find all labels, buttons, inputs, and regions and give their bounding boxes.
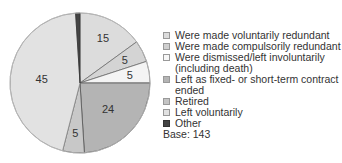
slice-value-label: 5 — [122, 54, 128, 66]
pie-slice — [80, 83, 150, 153]
legend-swatch — [163, 76, 170, 83]
legend-swatch — [163, 98, 170, 105]
slice-value-label: 5 — [127, 69, 133, 81]
slice-value-label: 5 — [72, 127, 78, 139]
legend: Were made voluntarily redundant Were mad… — [163, 30, 341, 140]
legend-item-dismissed: Were dismissed/left involuntarily (inclu… — [163, 52, 341, 74]
legend-swatch — [163, 54, 170, 61]
slice-value-label: 15 — [97, 32, 109, 44]
legend-swatch — [163, 43, 170, 50]
base-note: Base: 143 — [163, 129, 341, 140]
legend-item-fixed-term: Left as fixed- or short-term contract en… — [163, 74, 341, 96]
legend-label: Were dismissed/left involuntarily (inclu… — [175, 52, 325, 74]
legend-swatch — [163, 120, 170, 127]
slice-value-label: 45 — [36, 73, 48, 85]
pie-chart: 155524545 — [0, 0, 162, 163]
legend-swatch — [163, 109, 170, 116]
slice-value-label: 24 — [102, 103, 114, 115]
legend-swatch — [163, 32, 170, 39]
legend-label: Left as fixed- or short-term contract en… — [175, 74, 338, 96]
